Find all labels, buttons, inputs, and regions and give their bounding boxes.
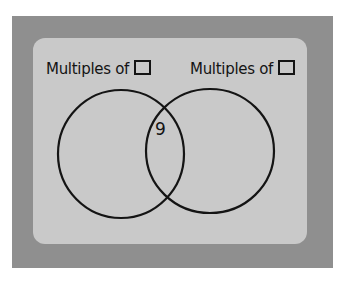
intersection-value: 9: [155, 119, 166, 139]
left-circle: [58, 90, 184, 218]
venn-diagram: [0, 0, 349, 284]
right-circle: [146, 89, 274, 213]
